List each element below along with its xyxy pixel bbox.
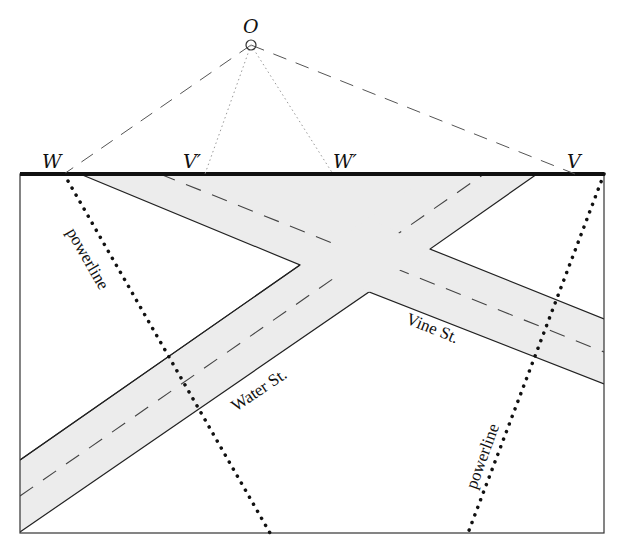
perspective-diagram: O W V′ W′ V Water St. Vine St. powerline… [0,0,619,545]
roads [20,174,604,532]
label-V-prime: V′ [183,150,202,172]
label-W-prime: W′ [333,150,358,172]
projection-V-prime [205,45,251,174]
projection-W-prime [251,45,333,174]
label-W: W [42,150,63,172]
label-V: V [567,150,583,172]
label-O: O [243,15,259,37]
label-powerline-right: powerline [462,421,503,491]
label-powerline-left: powerline [63,225,113,293]
sightline-W [64,45,251,174]
sightline-V [251,45,575,174]
